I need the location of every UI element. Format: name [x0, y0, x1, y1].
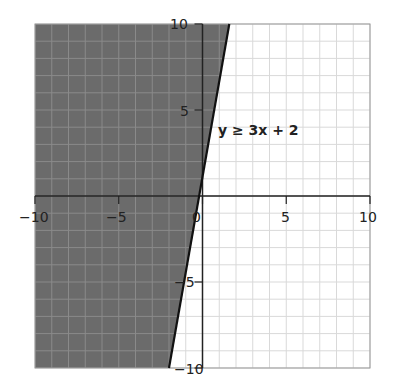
inequality-graph: −10 −5 0 5 10 10 5 −5 −10 y ≥ 3x + 2	[0, 0, 395, 392]
y-tick-label: 10	[170, 16, 188, 32]
x-tick-label: −5	[106, 209, 127, 225]
y-tick-label: 5	[180, 103, 189, 119]
x-tick-label: 5	[281, 209, 290, 225]
x-tick-label: 10	[359, 209, 377, 225]
x-tick-label: 0	[192, 209, 201, 225]
inequality-label: y ≥ 3x + 2	[218, 122, 299, 138]
x-tick-label: −10	[19, 209, 49, 225]
y-tick-label: −10	[174, 361, 204, 377]
y-tick-label: −5	[174, 274, 195, 290]
